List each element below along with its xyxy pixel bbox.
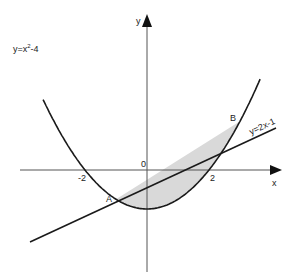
x-axis-label: x xyxy=(272,178,277,188)
tick-label-2: 2 xyxy=(210,173,215,183)
parabola-label: y=x2-4 xyxy=(13,43,39,54)
x-axis-arrow-icon xyxy=(270,165,282,175)
point-b-label: B xyxy=(230,113,236,123)
graph-canvas: y x 0 -2 2 A B y=x2-4 y=2x-1 xyxy=(0,0,296,280)
tick-label-neg2: -2 xyxy=(78,173,86,183)
graph-figure: y x 0 -2 2 A B y=x2-4 y=2x-1 xyxy=(0,0,296,280)
y-axis-label: y xyxy=(136,16,141,26)
origin-label: 0 xyxy=(141,159,146,169)
point-a-label: A xyxy=(106,194,112,204)
y-axis-arrow-icon xyxy=(142,14,152,27)
shaded-region xyxy=(116,121,240,209)
